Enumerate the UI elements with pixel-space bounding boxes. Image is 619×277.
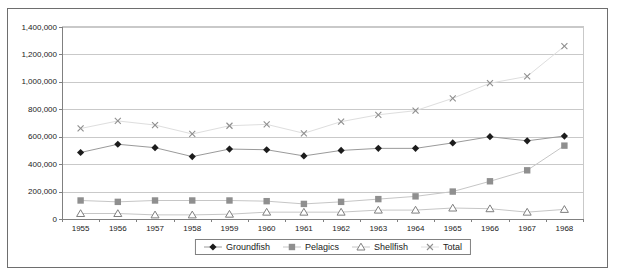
x-tick-label: 1957	[146, 224, 164, 233]
data-point-square	[263, 198, 269, 204]
x-tick-label: 1960	[258, 224, 276, 233]
data-point-square	[301, 201, 307, 207]
x-tick-label: 1966	[481, 224, 499, 233]
diamond-icon	[204, 242, 222, 252]
legend-item-pelagics: Pelagics	[283, 242, 339, 252]
x-tick-label: 1964	[407, 224, 425, 233]
square-icon	[283, 242, 301, 252]
triangle-icon	[352, 242, 370, 252]
y-tick-label: 200,000	[28, 187, 57, 196]
data-point-square	[226, 197, 232, 203]
data-point-square	[152, 197, 158, 203]
legend-label: Groundfish	[226, 242, 270, 252]
x-tick-label: 1961	[295, 224, 313, 233]
data-point-diamond	[209, 243, 216, 250]
y-tick-label: 1,400,000	[21, 23, 57, 32]
x-tick-label: 1963	[369, 224, 387, 233]
chart-legend: GroundfishPelagicsShellfishTotal	[195, 239, 471, 255]
data-point-square	[412, 193, 418, 199]
x-tick-label: 1968	[555, 224, 573, 233]
y-tick-label: 800,000	[28, 105, 57, 114]
legend-label: Shellfish	[374, 242, 408, 252]
x-tick-label: 1956	[109, 224, 127, 233]
y-tick-label: 0	[53, 215, 58, 224]
y-tick-label: 1,000,000	[21, 77, 57, 86]
legend-item-shellfish: Shellfish	[352, 242, 408, 252]
legend-label: Total	[443, 242, 462, 252]
x-tick-label: 1965	[444, 224, 462, 233]
data-point-square	[77, 197, 83, 203]
legend-label: Pelagics	[305, 242, 339, 252]
x-icon	[421, 242, 439, 252]
x-tick-label: 1962	[332, 224, 350, 233]
data-point-square	[375, 196, 381, 202]
y-tick-label: 1,200,000	[21, 50, 57, 59]
x-tick-label: 1967	[518, 224, 536, 233]
data-point-square	[115, 199, 121, 205]
data-point-square	[189, 197, 195, 203]
data-point-square	[524, 167, 530, 173]
y-axis-labels: 0200,000400,000600,000800,0001,000,0001,…	[21, 23, 57, 224]
x-axis-labels: 1955195619571958195919601961196219631964…	[63, 219, 584, 233]
x-tick-label: 1955	[72, 224, 90, 233]
chart-canvas: 0200,000400,000600,000800,0001,000,0001,…	[0, 0, 619, 277]
legend-item-total: Total	[421, 242, 462, 252]
data-point-square	[561, 142, 567, 148]
data-point-square	[450, 188, 456, 194]
data-point-square	[338, 199, 344, 205]
legend-item-groundfish: Groundfish	[204, 242, 270, 252]
data-point-square	[289, 244, 295, 250]
data-point-square	[487, 178, 493, 184]
fisheries-line-chart[interactable]: 0200,000400,000600,000800,0001,000,0001,…	[0, 0, 619, 277]
x-tick-label: 1958	[183, 224, 201, 233]
y-tick-label: 600,000	[28, 132, 57, 141]
y-tick-label: 400,000	[28, 160, 57, 169]
x-tick-label: 1959	[221, 224, 239, 233]
